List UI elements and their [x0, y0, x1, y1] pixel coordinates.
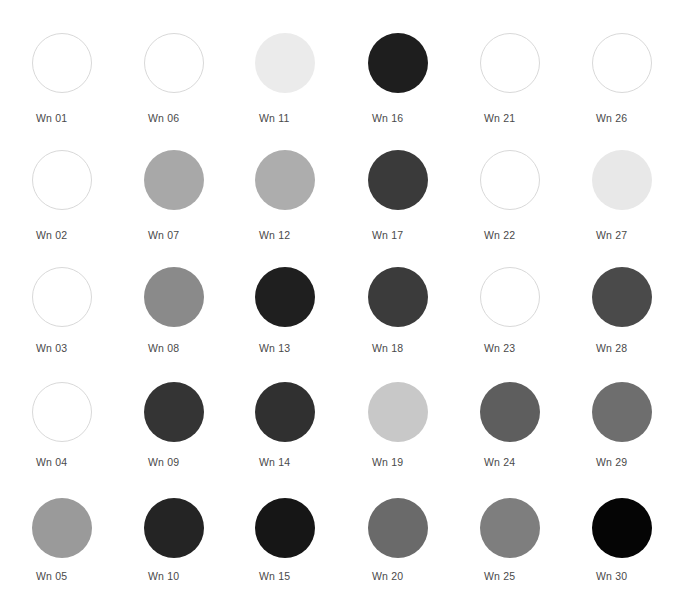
swatch-circle[interactable] [255, 267, 315, 327]
swatch-cell[interactable]: Wn 24 [478, 380, 590, 478]
swatch-circle[interactable] [480, 33, 540, 93]
swatch-circle[interactable] [144, 382, 204, 442]
swatch-cell[interactable]: Wn 10 [142, 496, 254, 592]
swatch-cell[interactable]: Wn 28 [590, 265, 675, 364]
swatch-label: Wn 05 [36, 570, 67, 582]
swatch-label: Wn 14 [259, 456, 290, 468]
swatch-circle[interactable] [480, 267, 540, 327]
swatch-circle[interactable] [480, 498, 540, 558]
swatch-circle[interactable] [592, 150, 652, 210]
swatch-label: Wn 29 [596, 456, 627, 468]
swatch-label: Wn 11 [259, 112, 290, 124]
swatch-label: Wn 08 [148, 342, 179, 354]
swatch-circle[interactable] [32, 382, 92, 442]
swatch-label: Wn 23 [484, 342, 515, 354]
swatch-label: Wn 20 [372, 570, 403, 582]
swatch-circle[interactable] [32, 267, 92, 327]
swatch-cell[interactable]: Wn 26 [590, 31, 675, 134]
swatch-cell[interactable]: Wn 13 [253, 265, 365, 364]
swatch-cell[interactable]: Wn 04 [30, 380, 142, 478]
swatch-cell[interactable]: Wn 03 [30, 265, 142, 364]
swatch-cell[interactable]: Wn 18 [366, 265, 478, 364]
swatch-cell[interactable]: Wn 25 [478, 496, 590, 592]
swatch-label: Wn 27 [596, 229, 627, 241]
swatch-circle[interactable] [32, 498, 92, 558]
swatch-cell[interactable]: Wn 17 [366, 148, 478, 251]
swatch-label: Wn 28 [596, 342, 627, 354]
swatch-cell[interactable]: Wn 27 [590, 148, 675, 251]
swatch-label: Wn 02 [36, 229, 67, 241]
swatch-cell[interactable]: Wn 20 [366, 496, 478, 592]
swatch-circle[interactable] [368, 267, 428, 327]
swatch-circle[interactable] [32, 33, 92, 93]
swatch-label: Wn 22 [484, 229, 515, 241]
swatch-circle[interactable] [255, 150, 315, 210]
swatch-label: Wn 01 [36, 112, 67, 124]
swatch-label: Wn 17 [372, 229, 403, 241]
swatch-label: Wn 12 [259, 229, 290, 241]
swatch-circle[interactable] [368, 33, 428, 93]
swatch-circle[interactable] [144, 150, 204, 210]
swatch-cell[interactable]: Wn 30 [590, 496, 675, 592]
swatch-cell[interactable]: Wn 23 [478, 265, 590, 364]
swatch-circle[interactable] [32, 150, 92, 210]
swatch-circle[interactable] [255, 382, 315, 442]
swatch-cell[interactable]: Wn 02 [30, 148, 142, 251]
swatch-label: Wn 30 [596, 570, 627, 582]
swatch-circle[interactable] [255, 33, 315, 93]
swatch-circle[interactable] [592, 267, 652, 327]
swatch-circle[interactable] [144, 498, 204, 558]
swatch-label: Wn 19 [372, 456, 403, 468]
swatch-label: Wn 18 [372, 342, 403, 354]
swatch-label: Wn 09 [148, 456, 179, 468]
swatch-label: Wn 04 [36, 456, 67, 468]
swatch-cell[interactable]: Wn 09 [142, 380, 254, 478]
swatch-label: Wn 16 [372, 112, 403, 124]
swatch-circle[interactable] [592, 33, 652, 93]
swatch-label: Wn 07 [148, 229, 179, 241]
swatch-label: Wn 15 [259, 570, 290, 582]
swatch-label: Wn 25 [484, 570, 515, 582]
swatch-circle[interactable] [368, 382, 428, 442]
swatch-label: Wn 24 [484, 456, 515, 468]
swatch-cell[interactable]: Wn 19 [366, 380, 478, 478]
swatch-label: Wn 10 [148, 570, 179, 582]
swatch-grid: Wn 01Wn 06Wn 11Wn 16Wn 21Wn 26Wn 02Wn 07… [0, 0, 675, 606]
swatch-cell[interactable]: Wn 14 [253, 380, 365, 478]
swatch-circle[interactable] [480, 150, 540, 210]
swatch-cell[interactable]: Wn 29 [590, 380, 675, 478]
swatch-circle[interactable] [480, 382, 540, 442]
swatch-cell[interactable]: Wn 16 [366, 31, 478, 134]
swatch-label: Wn 06 [148, 112, 179, 124]
swatch-cell[interactable]: Wn 22 [478, 148, 590, 251]
swatch-cell[interactable]: Wn 15 [253, 496, 365, 592]
swatch-cell[interactable]: Wn 06 [142, 31, 254, 134]
swatch-circle[interactable] [592, 498, 652, 558]
swatch-cell[interactable]: Wn 21 [478, 31, 590, 134]
swatch-circle[interactable] [592, 382, 652, 442]
swatch-cell[interactable]: Wn 11 [253, 31, 365, 134]
swatch-circle[interactable] [368, 150, 428, 210]
swatch-cell[interactable]: Wn 05 [30, 496, 142, 592]
swatch-label: Wn 21 [484, 112, 515, 124]
swatch-circle[interactable] [255, 498, 315, 558]
swatch-circle[interactable] [368, 498, 428, 558]
swatch-label: Wn 13 [259, 342, 290, 354]
swatch-cell[interactable]: Wn 12 [253, 148, 365, 251]
swatch-cell[interactable]: Wn 07 [142, 148, 254, 251]
swatch-label: Wn 03 [36, 342, 67, 354]
swatch-cell[interactable]: Wn 01 [30, 31, 142, 134]
swatch-cell[interactable]: Wn 08 [142, 265, 254, 364]
swatch-label: Wn 26 [596, 112, 627, 124]
swatch-circle[interactable] [144, 33, 204, 93]
swatch-circle[interactable] [144, 267, 204, 327]
